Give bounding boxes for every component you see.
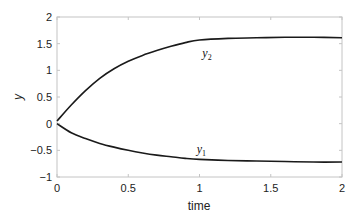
series-line-y2 <box>57 37 342 121</box>
x-tick-label: 2 <box>339 182 345 194</box>
y-tick-label: 1 <box>46 64 52 76</box>
series-label-y2: y2 <box>201 46 211 62</box>
series-labels: y1y2 <box>196 46 212 158</box>
x-tick-label: 1.5 <box>263 182 278 194</box>
y-tick-label: 0 <box>46 118 52 130</box>
x-axis-label: time <box>188 199 211 213</box>
y-tick-label: −0.5 <box>30 144 52 156</box>
x-tick-label: 0 <box>54 182 60 194</box>
y-tick-label: 0.5 <box>37 91 52 103</box>
x-tick-label: 1 <box>196 182 202 194</box>
series-label-y1: y1 <box>196 142 206 158</box>
x-axis-ticks: 00.511.52 <box>54 17 345 194</box>
line-chart: 21.510.50−0.5−1 00.511.52 y1y2 time y <box>0 0 359 221</box>
y-axis-label: y <box>11 93 25 101</box>
y-tick-label: 2 <box>46 11 52 23</box>
y-tick-label: −1 <box>39 171 52 183</box>
x-tick-label: 0.5 <box>121 182 136 194</box>
y-tick-label: 1.5 <box>37 38 52 50</box>
